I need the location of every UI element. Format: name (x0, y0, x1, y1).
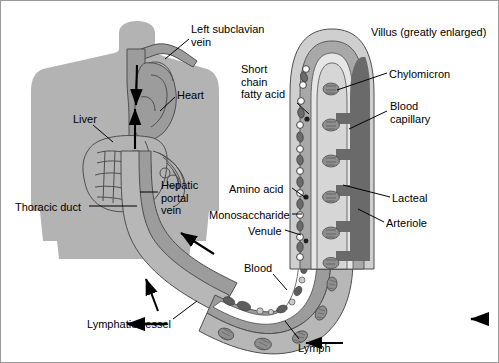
label-monosaccharide: Monosaccharide (209, 209, 290, 222)
anatomy-diagram (1, 1, 498, 362)
label-short-chain-fatty-acid: Short chain fatty acid (241, 63, 285, 101)
label-blood-capillary: Blood capillary (390, 100, 430, 125)
label-blood: Blood (244, 262, 272, 275)
label-liver: Liver (73, 113, 97, 126)
label-thoracic-duct: Thoracic duct (15, 201, 81, 214)
label-villus-greatly-enlarged: Villus (greatly enlarged) (371, 26, 486, 39)
label-chylomicron: Chylomicron (389, 68, 450, 81)
label-amino-acid: Amino acid (229, 183, 283, 196)
arrow-down-descending (136, 65, 137, 105)
short-chain-fatty-acid-dot (304, 116, 309, 121)
label-heart: Heart (177, 89, 204, 102)
label-venule: Venule (248, 225, 282, 238)
label-arteriole: Arteriole (386, 217, 427, 230)
label-lymph: Lymph (298, 342, 331, 355)
arrow-lymph-to-duct (146, 279, 158, 311)
label-left-subclavian-vein: Left subclavian vein (191, 23, 264, 48)
leader-lymphatic-vessel (173, 301, 197, 319)
label-lymphatic-vessel: Lymphatic vessel (87, 318, 171, 331)
label-lacteal: Lacteal (392, 192, 427, 205)
label-hepatic-portal-vein: Hepatic portal vein (161, 179, 198, 217)
figure-canvas: Left subclavian vein Heart Liver Hepatic… (0, 0, 499, 363)
villus (290, 29, 374, 269)
leader-blood (273, 274, 287, 290)
